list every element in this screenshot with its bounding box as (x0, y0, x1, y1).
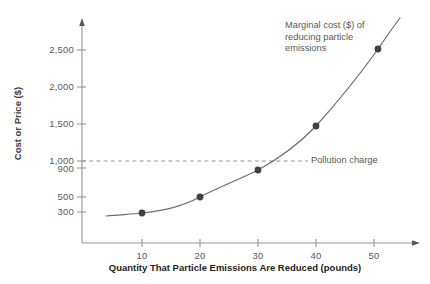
data-point (313, 123, 320, 130)
annotation-line-2: reducing particle (285, 32, 405, 44)
x-axis (82, 240, 420, 246)
x-tick-label-20: 20 (180, 250, 220, 261)
data-point (139, 210, 146, 217)
annotation-line-1: Marginal cost ($) of (285, 20, 405, 32)
y-tick-label-900: 900 (26, 163, 74, 174)
x-axis-title: Quantity That Particle Emissions Are Red… (60, 262, 410, 273)
y-tick-label-500: 500 (26, 191, 74, 202)
data-point (255, 167, 262, 174)
marginal-cost-annotation: Marginal cost ($) of reducing particle e… (285, 20, 405, 55)
x-tick-label-10: 10 (122, 250, 162, 261)
chart-figure: 2,500 2,000 1,500 1,000 900 500 300 10 2… (0, 0, 430, 284)
annotation-line-3: emissions (285, 43, 405, 55)
y-tick-label-300: 300 (26, 206, 74, 217)
y-tick-label-2000: 2,000 (26, 81, 74, 92)
y-tick-label-1500: 1,500 (26, 118, 74, 129)
x-tick-label-50: 50 (354, 250, 394, 261)
y-axis-title: Cost or Price ($) (12, 69, 23, 179)
data-point-markers (139, 46, 382, 217)
y-axis (79, 18, 85, 243)
data-point (197, 194, 204, 201)
x-tick-label-40: 40 (296, 250, 336, 261)
x-tick-label-30: 30 (238, 250, 278, 261)
pollution-charge-label: Pollution charge (311, 155, 378, 165)
y-tick-label-2500: 2,500 (26, 44, 74, 55)
